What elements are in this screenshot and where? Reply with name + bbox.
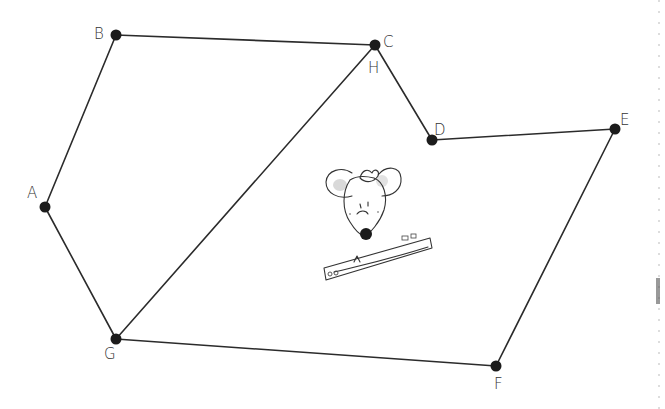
vertex-dot-g xyxy=(111,334,122,345)
edge-d-e xyxy=(432,129,615,140)
polygon-vertices xyxy=(40,30,621,372)
polygon-diagram: B C H D E A G F xyxy=(0,0,665,409)
edge-g-h xyxy=(116,45,375,339)
edge-e-f xyxy=(496,129,615,366)
vertex-label-g: G xyxy=(104,345,116,363)
vertex-dot-e xyxy=(610,124,621,135)
edge-c-d xyxy=(375,45,432,140)
vertex-dot-c xyxy=(370,40,381,51)
vertex-label-f: F xyxy=(494,375,503,393)
vertex-label-c: C xyxy=(383,33,393,51)
edge-a-b xyxy=(45,35,116,207)
vertex-label-e: E xyxy=(620,111,629,129)
vertex-dot-b xyxy=(111,30,122,41)
mouse-nose xyxy=(360,228,372,240)
polygon-edges xyxy=(45,35,615,366)
mouse-eye-left xyxy=(360,204,361,208)
edge-g-a xyxy=(45,207,116,339)
mouse-with-ruler-illustration xyxy=(324,168,432,280)
page-edge-mark xyxy=(656,278,660,304)
vertex-label-a: A xyxy=(27,184,37,202)
edge-b-c xyxy=(116,35,375,45)
mouse-hair-tuft xyxy=(360,170,378,181)
mouse-frown xyxy=(357,211,368,214)
vertex-label-h: H xyxy=(368,59,379,77)
ruler xyxy=(324,234,432,280)
vertex-label-d: D xyxy=(434,121,446,139)
edge-f-g xyxy=(116,339,496,366)
vertex-label-b: B xyxy=(94,25,104,43)
vertex-dot-f xyxy=(491,361,502,372)
vertex-dot-a xyxy=(40,202,51,213)
